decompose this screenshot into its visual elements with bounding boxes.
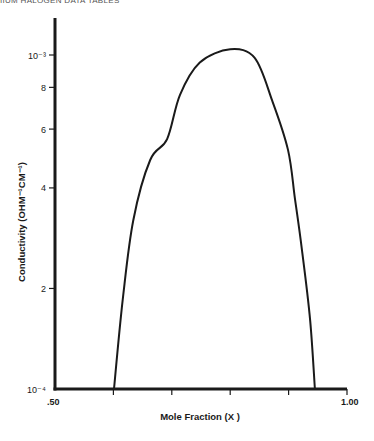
ticks: .501.0010⁻⁴246810⁻³	[27, 51, 358, 408]
y-tick-label: 2	[41, 284, 46, 294]
y-tick-label: 8	[41, 83, 46, 93]
axes	[54, 18, 348, 391]
x-axis-label: Mole Fraction (X )	[160, 411, 240, 422]
y-axis-label: Conductivity (OHM⁻¹CM⁻¹)	[16, 162, 27, 282]
x-tick-label: .50	[47, 397, 60, 407]
y-tick-label: 4	[41, 183, 46, 193]
y-tick-label: 10⁻³	[28, 51, 46, 61]
conductivity-chart: .501.0010⁻⁴246810⁻³ Mole Fraction (X ) C…	[0, 0, 374, 441]
conductivity-curve	[114, 49, 315, 389]
y-tick-label: 6	[41, 125, 46, 135]
y-tick-label: 10⁻⁴	[27, 385, 46, 395]
x-tick-label: 1.00	[341, 397, 359, 407]
